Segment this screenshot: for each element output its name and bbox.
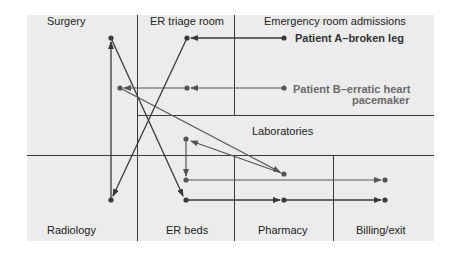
node-billing-a xyxy=(382,197,387,202)
area-label-billing: Billing/exit xyxy=(356,224,406,236)
node-lab-b xyxy=(281,171,286,176)
area-label-laboratories: Laboratories xyxy=(252,125,314,137)
area-label-surgery: Surgery xyxy=(47,15,86,27)
area-label-er-beds: ER beds xyxy=(166,224,209,236)
area-label-pharmacy: Pharmacy xyxy=(258,224,308,236)
node-admissions-a xyxy=(281,35,286,40)
node-lab-entry-b xyxy=(183,136,188,141)
node-er-beds-b xyxy=(183,177,188,182)
node-surgery-a xyxy=(108,35,113,40)
area-label-radiology: Radiology xyxy=(47,224,96,236)
node-pharmacy-a xyxy=(281,197,286,202)
node-admissions-b xyxy=(281,85,286,90)
node-triage-a xyxy=(184,35,189,40)
node-er-beds-a xyxy=(183,197,188,202)
area-label-er-triage: ER triage room xyxy=(150,15,224,27)
patient-b-label-line2: pacemaker xyxy=(352,94,410,106)
node-triage-b xyxy=(184,85,189,90)
area-label-admissions: Emergency room admissions xyxy=(264,15,406,27)
node-surgery-b xyxy=(117,85,122,90)
patient-a-label: Patient A–broken leg xyxy=(295,32,404,44)
patient-flow-diagram: Surgery ER triage room Emergency room ad… xyxy=(0,0,452,255)
node-billing-b xyxy=(382,177,387,182)
node-radiology-a xyxy=(108,197,113,202)
diagram-background xyxy=(27,15,434,241)
